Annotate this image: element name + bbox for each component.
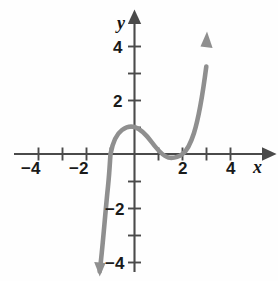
x-tick-label-pos4: 4	[226, 160, 235, 177]
x-tick-label-pos2: 2	[178, 160, 187, 177]
y-axis-label: y	[117, 14, 125, 32]
x-tick-label-neg2: −2	[69, 160, 88, 177]
y-tick-label-neg4: −4	[105, 255, 124, 272]
curve-arrow-left	[94, 262, 105, 277]
cubic-function-graph: −4 −2 2 4 4 2 −2 −4 y x	[0, 0, 278, 281]
x-tick-label-neg4: −4	[21, 160, 40, 177]
plot-area	[0, 0, 278, 281]
y-tick-label-pos4: 4	[113, 39, 122, 56]
y-tick-label-neg2: −2	[105, 201, 124, 218]
y-tick-label-pos2: 2	[113, 93, 122, 110]
x-axis-label: x	[253, 158, 262, 176]
curve-arrow-right	[201, 32, 213, 49]
